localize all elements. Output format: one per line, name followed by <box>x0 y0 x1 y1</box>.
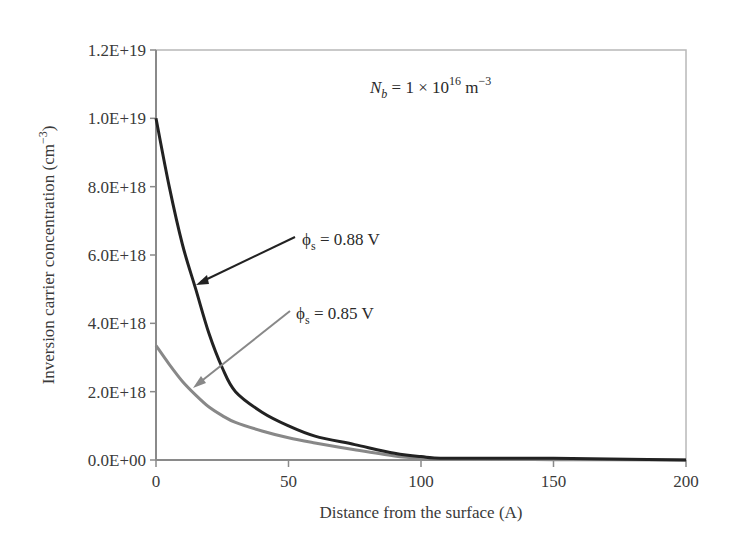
x-tick-label: 50 <box>280 472 297 491</box>
x-tick-label: 150 <box>541 472 567 491</box>
chart-canvas: 0.0E+002.0E+184.0E+186.0E+188.0E+181.0E+… <box>0 0 729 551</box>
x-tick-label: 100 <box>408 472 434 491</box>
y-tick-label: 8.0E+18 <box>88 178 146 197</box>
annotation-088: ϕs = 0.88 V <box>302 230 380 253</box>
series-line <box>156 346 686 460</box>
y-ticks: 0.0E+002.0E+184.0E+186.0E+188.0E+181.0E+… <box>88 41 156 470</box>
arrow-088 <box>201 237 295 282</box>
annotation-085: ϕs = 0.85 V <box>296 304 374 327</box>
y-tick-label: 6.0E+18 <box>88 246 146 265</box>
y-tick-label: 1.2E+19 <box>88 41 146 60</box>
x-ticks: 050100150200 <box>152 460 699 491</box>
series-line <box>156 118 686 460</box>
x-tick-label: 0 <box>152 472 161 491</box>
series-group <box>156 118 686 460</box>
x-tick-label: 200 <box>673 472 699 491</box>
arrow-088-head <box>196 275 209 285</box>
doping-annotation: Nb = 1 × 1016 m−3 <box>369 74 491 101</box>
y-tick-label: 4.0E+18 <box>88 314 146 333</box>
y-tick-label: 2.0E+18 <box>88 383 146 402</box>
y-tick-label: 1.0E+19 <box>88 109 146 128</box>
x-axis-title: Distance from the surface (A) <box>320 503 523 522</box>
y-axis-title: Inversion carrier concentration (cm−3) <box>36 126 58 385</box>
y-tick-label: 0.0E+00 <box>88 451 146 470</box>
plot-frame <box>156 50 686 460</box>
